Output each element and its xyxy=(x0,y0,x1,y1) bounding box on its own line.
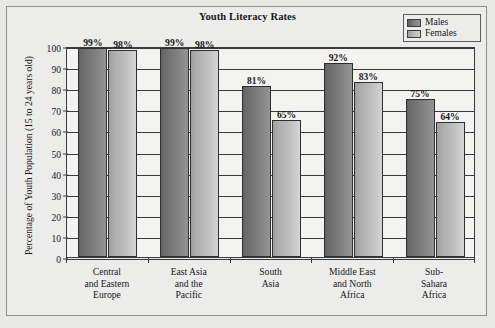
y-tick-label: 0 xyxy=(56,254,61,265)
bar-males[interactable]: 99% xyxy=(160,48,189,257)
bar-males[interactable]: 92% xyxy=(324,63,353,257)
bar-value-label: 99% xyxy=(83,37,102,48)
x-tick-mark xyxy=(311,258,312,263)
x-category-label: SouthAsia xyxy=(230,266,312,289)
legend-label-females: Females xyxy=(425,28,457,39)
bar-value-label: 75% xyxy=(410,88,429,99)
x-category-line: Europe xyxy=(66,289,148,301)
x-category-line: Africa xyxy=(311,289,393,301)
x-category-line: Africa xyxy=(393,289,475,301)
bar-group: 99%98% xyxy=(67,48,149,257)
x-category-line: Pacific xyxy=(148,289,230,301)
x-tick-mark xyxy=(66,258,67,263)
bar-males[interactable]: 99% xyxy=(78,48,107,257)
bar-value-label: 98% xyxy=(113,39,132,50)
x-category-label: Middle Eastand NorthAfrica xyxy=(311,266,393,301)
bar-females[interactable]: 64% xyxy=(436,122,465,257)
y-tick-label: 10 xyxy=(51,232,61,243)
x-tick-mark xyxy=(230,258,231,263)
male-swatch-icon xyxy=(407,19,421,27)
legend-item-males: Males xyxy=(407,17,477,28)
bar-value-label: 81% xyxy=(247,75,266,86)
y-tick-label: 50 xyxy=(51,148,61,159)
x-axis-ticks xyxy=(66,258,475,264)
bar-value-label: 64% xyxy=(440,111,459,122)
x-category-label: East Asiaand thePacific xyxy=(148,266,230,301)
bar-females[interactable]: 98% xyxy=(190,50,219,257)
y-axis-title: Percentage of Youth Population (15 to 24… xyxy=(23,36,34,276)
legend-label-males: Males xyxy=(425,17,448,28)
bar-group: 99%98% xyxy=(149,48,231,257)
female-swatch-icon xyxy=(407,30,421,38)
x-category-line: Sub- xyxy=(393,266,475,278)
bar-group: 81%65% xyxy=(231,48,313,257)
x-category-line: Sahara xyxy=(393,278,475,290)
x-category-label: Centraland EasternEurope xyxy=(66,266,148,301)
x-category-line: East Asia xyxy=(148,266,230,278)
chart-screenshot: Youth Literacy Rates Males Females Perce… xyxy=(0,0,495,328)
x-category-line: Middle East xyxy=(311,266,393,278)
y-tick-label: 40 xyxy=(51,169,61,180)
y-tick-label: 20 xyxy=(51,211,61,222)
bar-males[interactable]: 75% xyxy=(406,99,435,257)
bar-value-label: 65% xyxy=(277,109,296,120)
bar-group: 75%64% xyxy=(394,48,476,257)
x-category-line: South xyxy=(230,266,312,278)
bar-females[interactable]: 65% xyxy=(272,120,301,257)
bar-group: 92%83% xyxy=(312,48,394,257)
chart-legend: Males Females xyxy=(403,14,481,42)
bar-value-label: 83% xyxy=(359,71,378,82)
bar-value-label: 99% xyxy=(165,37,184,48)
x-tick-mark xyxy=(393,258,394,263)
bar-females[interactable]: 98% xyxy=(108,50,137,257)
x-tick-mark xyxy=(148,258,149,263)
y-tick-label: 90 xyxy=(51,64,61,75)
bar-value-label: 92% xyxy=(329,52,348,63)
x-category-label: Sub-SaharaAfrica xyxy=(393,266,475,301)
y-tick-label: 100 xyxy=(47,43,61,54)
y-tick-label: 30 xyxy=(51,190,61,201)
x-category-line: Central xyxy=(66,266,148,278)
x-category-line: Asia xyxy=(230,278,312,290)
x-category-line: and North xyxy=(311,278,393,290)
y-tick-label: 80 xyxy=(51,85,61,96)
x-category-line: and Eastern xyxy=(66,278,148,290)
x-tick-mark xyxy=(474,258,475,263)
bar-males[interactable]: 81% xyxy=(242,86,271,257)
x-category-line: and the xyxy=(148,278,230,290)
plot-area: 100908070605040302010099%98%99%98%81%65%… xyxy=(66,47,475,258)
x-axis-labels: Centraland EasternEuropeEast Asiaand the… xyxy=(66,266,475,312)
bar-value-label: 98% xyxy=(195,39,214,50)
legend-item-females: Females xyxy=(407,28,477,39)
y-tick-label: 70 xyxy=(51,106,61,117)
y-tick-label: 60 xyxy=(51,127,61,138)
bar-females[interactable]: 83% xyxy=(354,82,383,257)
